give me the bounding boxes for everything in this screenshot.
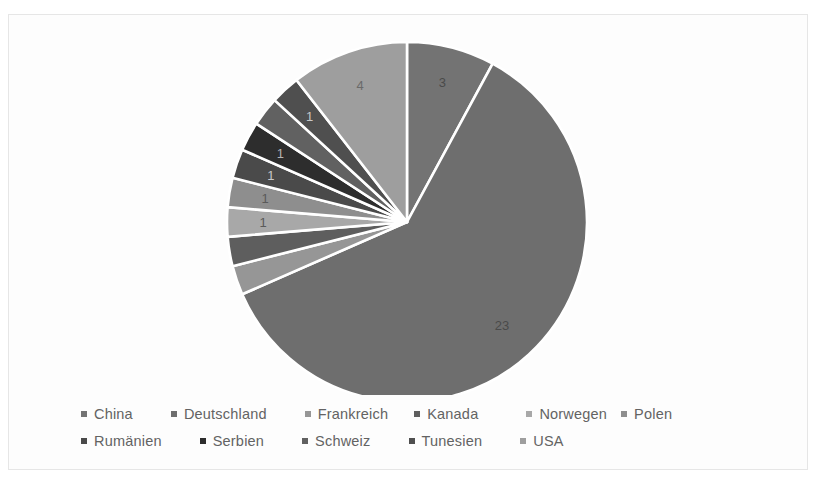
legend-marker-icon [414, 411, 420, 417]
pie-slices-group [227, 42, 587, 395]
legend-item-label: Rumänien [94, 433, 162, 449]
pie-data-label-serbien: 1 [277, 146, 284, 161]
legend-item-label: Tunesien [422, 433, 483, 449]
legend-row-2: RumänienSerbienSchweizTunesienUSA [9, 427, 807, 454]
chart-legend: ChinaDeutschlandFrankreichKanadaNorwegen… [9, 400, 807, 454]
legend-item-china[interactable]: China [81, 406, 133, 422]
legend-marker-icon [409, 438, 415, 444]
legend-item-label: China [94, 406, 133, 422]
legend-item-frankreich[interactable]: Frankreich [305, 406, 389, 422]
legend-item-label: Frankreich [318, 406, 389, 422]
legend-item-label: Norwegen [539, 406, 607, 422]
legend-marker-icon [81, 411, 87, 417]
legend-item-deutschland[interactable]: Deutschland [171, 406, 267, 422]
legend-item-tunesien[interactable]: Tunesien [409, 433, 483, 449]
pie-chart-svg: 323111114 [9, 15, 807, 395]
pie-chart-plot-area: 323111114 [9, 15, 807, 395]
chart-frame: 323111114 ChinaDeutschlandFrankreichKana… [8, 14, 808, 470]
legend-item-norwegen[interactable]: Norwegen [526, 406, 607, 422]
legend-row-1: ChinaDeutschlandFrankreichKanadaNorwegen… [9, 400, 807, 427]
legend-item-label: Polen [634, 406, 672, 422]
pie-data-label-polen: 1 [261, 191, 268, 206]
legend-marker-icon [302, 438, 308, 444]
legend-marker-icon [171, 411, 177, 417]
legend-item-kanada[interactable]: Kanada [414, 406, 478, 422]
legend-item-label: Deutschland [184, 406, 267, 422]
legend-marker-icon [305, 411, 311, 417]
legend-item-label: Kanada [427, 406, 478, 422]
pie-data-label-tunesien: 1 [306, 109, 313, 124]
legend-item-label: Serbien [213, 433, 264, 449]
scan-top-artifact [0, 0, 818, 13]
legend-marker-icon [200, 438, 206, 444]
pie-data-label-deutschland: 23 [495, 318, 509, 333]
legend-item-label: USA [533, 433, 563, 449]
legend-item-usa[interactable]: USA [520, 433, 563, 449]
legend-item-serbien[interactable]: Serbien [200, 433, 264, 449]
legend-marker-icon [81, 438, 87, 444]
pie-data-label-usa: 4 [357, 78, 364, 93]
legend-marker-icon [526, 411, 532, 417]
legend-item-rumänien[interactable]: Rumänien [81, 433, 162, 449]
pie-data-label-china: 3 [439, 75, 446, 90]
pie-data-label-rumänien: 1 [267, 168, 274, 183]
legend-item-schweiz[interactable]: Schweiz [302, 433, 370, 449]
legend-marker-icon [520, 438, 526, 444]
legend-marker-icon [621, 411, 627, 417]
legend-item-label: Schweiz [315, 433, 370, 449]
pie-data-label-norwegen: 1 [259, 215, 266, 230]
legend-item-polen[interactable]: Polen [621, 406, 672, 422]
